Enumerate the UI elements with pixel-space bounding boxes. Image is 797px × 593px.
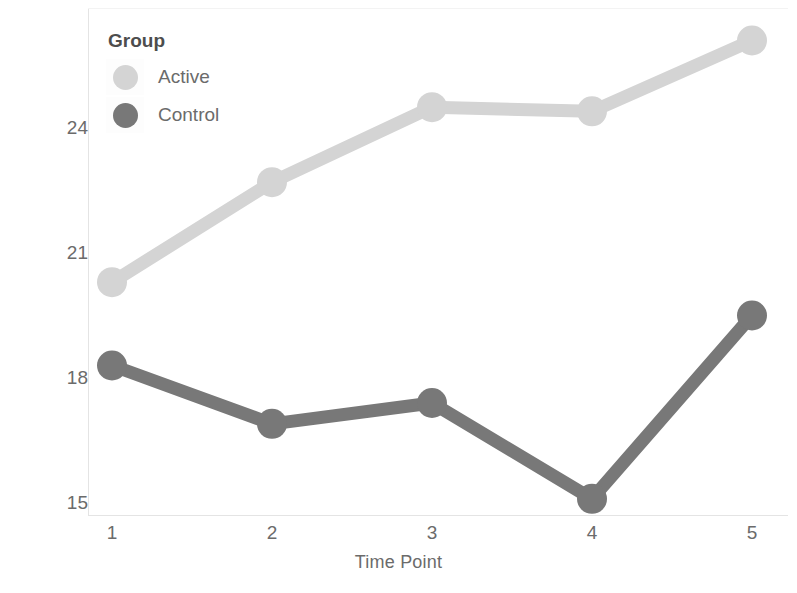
legend-swatch-control	[106, 97, 144, 133]
legend-label-control: Control	[158, 104, 219, 126]
legend-item-active[interactable]: Active	[106, 58, 219, 96]
data-point-control-3[interactable]	[417, 388, 447, 418]
data-point-control-2[interactable]	[257, 409, 287, 439]
legend: Group Active Control	[106, 30, 219, 134]
data-point-active-1[interactable]	[97, 267, 127, 297]
legend-swatch-active	[106, 59, 144, 95]
line-chart: Average Number of Lifts 15 18 21 24 1 2 …	[0, 0, 797, 593]
circle-marker-icon	[113, 103, 138, 128]
data-point-control-1[interactable]	[97, 351, 127, 381]
data-point-control-5[interactable]	[737, 301, 767, 331]
legend-title: Group	[106, 30, 219, 52]
data-point-control-4[interactable]	[577, 484, 607, 514]
data-point-active-5[interactable]	[737, 26, 767, 56]
data-point-active-3[interactable]	[417, 92, 447, 122]
data-point-active-2[interactable]	[257, 167, 287, 197]
legend-label-active: Active	[158, 66, 210, 88]
legend-item-control[interactable]: Control	[106, 96, 219, 134]
data-point-active-4[interactable]	[577, 96, 607, 126]
circle-marker-icon	[113, 65, 138, 90]
